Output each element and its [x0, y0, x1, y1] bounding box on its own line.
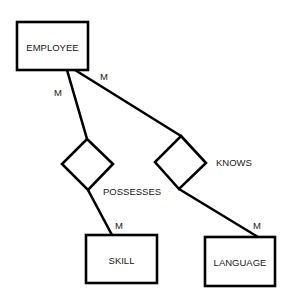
relationship-label-knows: KNOWS	[216, 157, 252, 168]
relationship-possesses	[62, 139, 113, 190]
entity-language: LANGUAGE	[205, 237, 275, 286]
relationships-layer	[62, 136, 206, 190]
entity-label-language: LANGUAGE	[214, 257, 267, 268]
relationship-knows	[155, 136, 206, 189]
cardinality-card-employee-knows: M	[100, 71, 108, 82]
connector-employee-possesses	[67, 70, 87, 139]
entity-label-employee: EMPLOYEE	[26, 42, 78, 53]
relationship-label-possesses: POSSESSES	[103, 186, 161, 197]
entity-employee: EMPLOYEE	[17, 22, 88, 70]
cardinality-card-skill: M	[115, 220, 123, 231]
er-diagram: EMPLOYEESKILLLANGUAGE POSSESSESKNOWSMMMM	[0, 0, 292, 300]
entity-label-skill: SKILL	[109, 255, 135, 266]
entities-layer: EMPLOYEESKILLLANGUAGE	[17, 22, 275, 286]
cardinality-card-language: M	[253, 220, 261, 231]
connector-employee-knows	[75, 70, 181, 136]
connector-knows-language	[179, 189, 258, 237]
cardinality-card-employee-possesses: M	[54, 87, 62, 98]
connector-possesses-skill	[88, 190, 112, 235]
entity-skill: SKILL	[86, 235, 157, 283]
